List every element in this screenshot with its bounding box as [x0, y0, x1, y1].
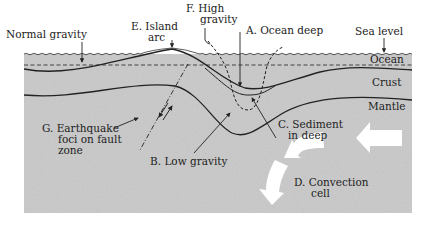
label-ocean-deep: A. Ocean deep — [245, 24, 323, 36]
ocean-trench-diagram: Normal gravity E. Island arc F. High gra… — [0, 0, 424, 227]
label-sea-level: Sea level — [355, 25, 404, 37]
label-earthquake-3: zone — [58, 144, 83, 156]
label-ocean: Ocean — [370, 53, 404, 65]
label-mantle: Mantle — [368, 100, 406, 112]
label-convection-2: cell — [311, 187, 330, 199]
label-sediment-2: in deep — [288, 129, 328, 141]
label-crust: Crust — [372, 76, 402, 88]
label-normal-gravity: Normal gravity — [6, 28, 87, 40]
label-island-arc-2: arc — [148, 31, 165, 43]
label-convection-1: D. Convection — [294, 176, 369, 188]
label-low-gravity: B. Low gravity — [150, 155, 228, 167]
label-high-gravity-2: gravity — [200, 13, 238, 25]
